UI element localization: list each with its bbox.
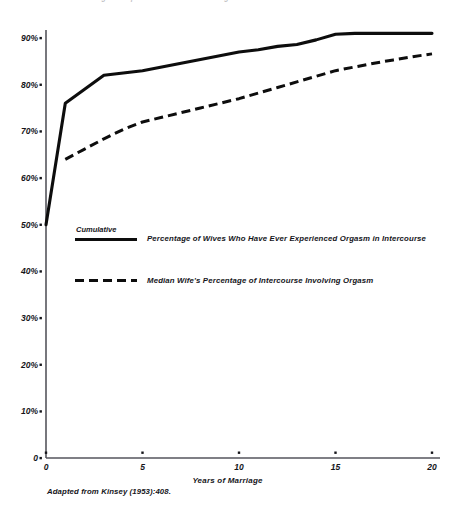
y-tick-label: 40% [2, 266, 38, 276]
figure-root: FIGURE 9.2 Orgasm Experience of Wives in… [0, 0, 455, 511]
x-tick-mark [238, 452, 240, 454]
y-tick-label: 50% [2, 220, 38, 230]
legend-entry-cumulative: Cumulative Percentage of Wives Who Have … [75, 234, 445, 256]
y-tick-mark [40, 457, 42, 459]
x-tick-mark [334, 452, 336, 454]
series-line-median-involving [65, 54, 432, 159]
y-tick-mark [40, 410, 42, 412]
legend-kicker-label: Cumulative [76, 225, 116, 234]
chart-legend: Cumulative Percentage of Wives Who Have … [75, 234, 445, 298]
y-axis-labels: 010%20%30%40%50%60%70%80%90% [0, 0, 38, 511]
y-tick-mark [40, 317, 42, 319]
y-tick-label: 80% [2, 80, 38, 90]
x-tick-mark [45, 452, 47, 454]
x-tick-label: 10 [234, 462, 243, 472]
y-tick-label: 70% [2, 126, 38, 136]
legend-label-cumulative: Percentage of Wives Who Have Ever Experi… [147, 234, 426, 243]
x-tick-label: 5 [140, 462, 145, 472]
x-tick-mark [431, 452, 433, 454]
legend-label-median: Median Wife's Percentage of Intercourse … [147, 276, 373, 285]
x-axis-ticks [45, 452, 433, 454]
x-axis-title: Years of Marriage [0, 476, 455, 485]
x-tick-label: 20 [427, 462, 436, 472]
x-tick-mark [141, 452, 143, 454]
y-tick-label: 0 [2, 453, 38, 463]
y-tick-mark [40, 364, 42, 366]
legend-entry-median: Median Wife's Percentage of Intercourse … [75, 276, 445, 298]
y-tick-label: 10% [2, 406, 38, 416]
y-tick-mark [40, 130, 42, 132]
y-tick-label: 90% [2, 33, 38, 43]
y-tick-mark [40, 270, 42, 272]
y-tick-label: 60% [2, 173, 38, 183]
y-axis-ticks [40, 37, 42, 459]
y-tick-label: 20% [2, 360, 38, 370]
x-tick-label: 15 [331, 462, 340, 472]
legend-swatch-dashed-line [75, 279, 137, 282]
y-tick-mark [40, 177, 42, 179]
y-tick-mark [40, 84, 42, 86]
y-tick-mark [40, 224, 42, 226]
source-note: Adapted from Kinsey (1953):408. [47, 487, 171, 496]
y-tick-label: 30% [2, 313, 38, 323]
x-tick-label: 0 [44, 462, 49, 472]
legend-swatch-solid-line [75, 238, 137, 241]
y-tick-mark [40, 37, 42, 39]
